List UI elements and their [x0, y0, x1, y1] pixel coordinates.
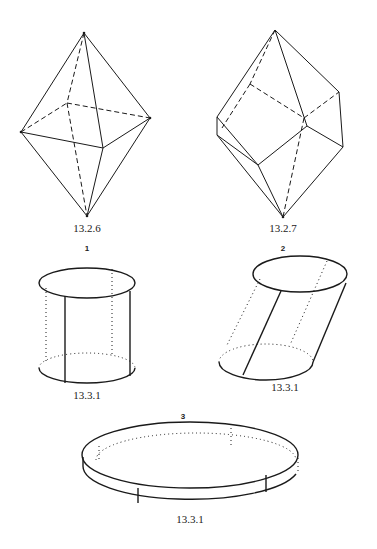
geometry-figures: 13.2.6 13.2.7 1 13.3.1 2 [0, 0, 377, 549]
right-cylinder-figure: 1 13.3.1 [39, 244, 135, 401]
caption-13-2-6: 13.2.6 [73, 222, 101, 234]
figure-number-2: 2 [281, 244, 286, 253]
caption-13-3-1-a: 13.3.1 [73, 389, 101, 401]
caption-13-3-1-c: 13.3.1 [176, 513, 204, 525]
flat-disk-cylinder-figure: 3 13.3.1 [82, 412, 298, 525]
caption-13-3-1-b: 13.3.1 [271, 381, 299, 393]
truncated-polyhedron-figure: 13.2.7 [217, 30, 343, 234]
octahedron-figure: 13.2.6 [20, 32, 152, 234]
figure-number-3: 3 [181, 412, 186, 421]
figure-number-1: 1 [85, 244, 90, 253]
caption-13-2-7: 13.2.7 [269, 222, 297, 234]
oblique-cylinder-figure: 2 13.3.1 [219, 244, 347, 393]
